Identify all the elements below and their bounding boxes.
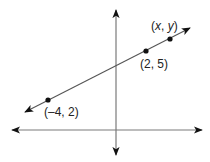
- coord-x: –4: [48, 105, 61, 119]
- paren-close: ): [75, 105, 79, 119]
- paren-close: ): [174, 19, 178, 33]
- point-label-x-y: (x, y): [151, 20, 178, 32]
- point-label-neg4-2: (–4, 2): [44, 106, 79, 118]
- coordinate-plane-diagram: (–4, 2) (2, 5) (x, y): [0, 0, 210, 162]
- coord-y: 2: [68, 105, 75, 119]
- point-2-5: [143, 48, 148, 53]
- paren-close: ): [164, 57, 168, 71]
- separator: ,: [161, 19, 168, 33]
- diagram-canvas: [0, 0, 210, 162]
- point-label-2-5: (2, 5): [140, 58, 168, 70]
- point-neg4-2: [45, 97, 50, 102]
- coord-x: 2: [144, 57, 151, 71]
- point-x-y: [167, 36, 172, 41]
